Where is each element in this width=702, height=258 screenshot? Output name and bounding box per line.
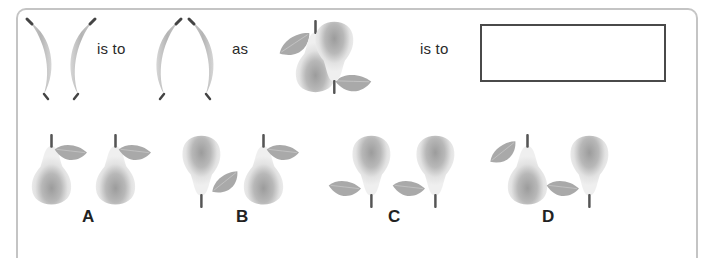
bananas-inward-image: [148, 18, 228, 98]
option-c-image[interactable]: [326, 132, 466, 212]
option-a-label[interactable]: A: [82, 207, 94, 227]
bananas-outward-image: [24, 18, 104, 98]
as-text: as: [232, 40, 248, 57]
option-d-image[interactable]: [482, 132, 622, 212]
option-d-label[interactable]: D: [542, 207, 554, 227]
is-to-text-2: is to: [420, 40, 449, 57]
pear-pair-image: [272, 18, 412, 98]
is-to-text-1: is to: [97, 40, 126, 57]
answer-box[interactable]: [480, 24, 666, 82]
option-b-image[interactable]: [172, 132, 312, 212]
option-a-image[interactable]: [22, 132, 162, 212]
option-c-label[interactable]: C: [388, 207, 400, 227]
option-b-label[interactable]: B: [236, 207, 248, 227]
